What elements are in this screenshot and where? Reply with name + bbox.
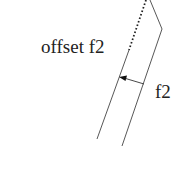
offset-diagram: offset f2 f2 [0, 0, 195, 177]
offset-arrow-shaft [124, 78, 144, 84]
offset-curve-line [97, 50, 129, 139]
original-curve-f2 [122, 0, 162, 146]
arrowhead-icon [119, 76, 127, 82]
offset-curve-dotted [129, 0, 146, 50]
offset-f2-label: offset f2 [41, 37, 105, 56]
f2-label: f2 [155, 82, 171, 101]
